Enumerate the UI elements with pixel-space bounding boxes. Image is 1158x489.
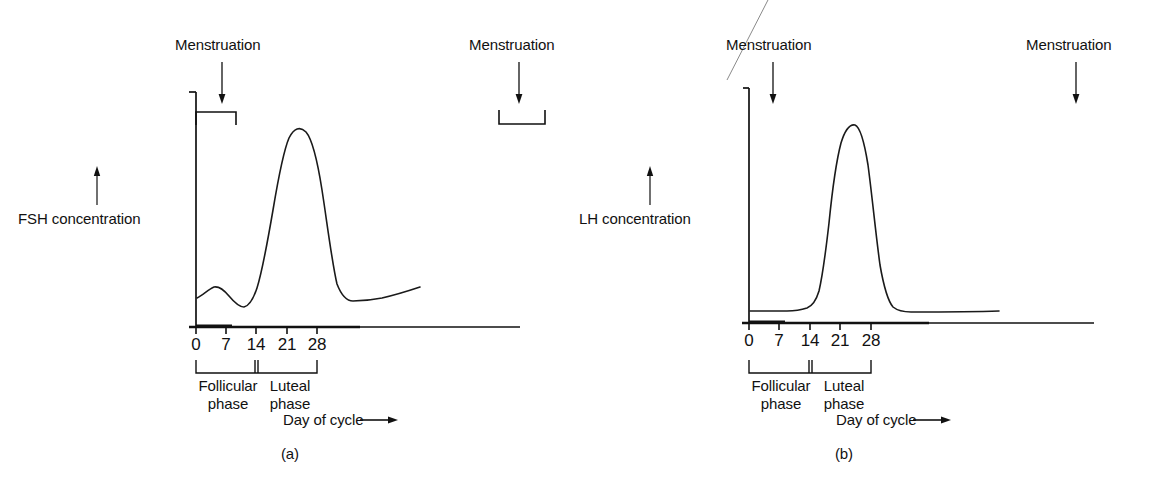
- menstruation-right-bracket-a: [499, 110, 545, 124]
- x-tick-label-14-a: 14: [247, 336, 266, 353]
- chart-panel-b: Menstruation Menstruation LH concentrati…: [579, 0, 1158, 489]
- menstruation-right-label-b: Menstruation: [1026, 36, 1112, 53]
- panel-caption-b: (b): [835, 445, 853, 462]
- x-tick-label-7-a: 7: [221, 336, 230, 353]
- x-tick-label-28-b: 28: [862, 332, 881, 349]
- day-of-cycle-arrow-head-b: [941, 417, 951, 424]
- day-of-cycle-arrow-head-a: [388, 417, 398, 424]
- y-axis-label-b: LH concentration: [579, 210, 691, 227]
- menstruation-left-bracket-a: [196, 112, 236, 125]
- menstruation-right-label-a: Menstruation: [469, 36, 555, 53]
- follicular-phase-label-b: Follicular phase: [751, 377, 810, 413]
- x-tick-label-7-b: 7: [774, 332, 783, 349]
- x-axis-label-b: Day of cycle: [836, 411, 917, 428]
- menstruation-right-arrow-head-a: [516, 94, 523, 104]
- y-axis-arrow-head-b: [647, 166, 653, 176]
- x-tick-label-14-b: 14: [801, 332, 820, 349]
- menstruation-left-label-b: Menstruation: [726, 36, 812, 53]
- chart-panel-a: Menstruation Menstruation FSH concentrat…: [0, 0, 579, 489]
- x-tick-label-28-a: 28: [308, 336, 327, 353]
- y-axis-arrow-head-a: [94, 166, 100, 176]
- panel-caption-a: (a): [281, 445, 299, 462]
- menstruation-left-label-a: Menstruation: [175, 36, 261, 53]
- figure-root: Menstruation Menstruation FSH concentrat…: [0, 0, 1158, 489]
- fsh-curve: [197, 129, 420, 307]
- x-tick-label-0-b: 0: [744, 332, 753, 349]
- phase-bracket-a: [196, 360, 317, 373]
- menstruation-left-arrow-head-a: [219, 94, 226, 104]
- menstruation-right-arrow-head-b: [1073, 94, 1080, 104]
- phase-bracket-b: [749, 360, 871, 373]
- x-tick-label-0-a: 0: [191, 336, 200, 353]
- follicular-phase-label-a: Follicular phase: [198, 377, 257, 413]
- menstruation-left-arrow-head-b: [770, 94, 777, 104]
- luteal-phase-label-a: Luteal phase: [270, 377, 310, 413]
- x-tick-label-21-b: 21: [831, 332, 850, 349]
- y-axis-label-a: FSH concentration: [18, 210, 141, 227]
- luteal-phase-label-b: Luteal phase: [824, 377, 864, 413]
- x-tick-label-21-a: 21: [278, 336, 297, 353]
- x-axis-label-a: Day of cycle: [283, 411, 364, 428]
- lh-curve: [750, 125, 999, 312]
